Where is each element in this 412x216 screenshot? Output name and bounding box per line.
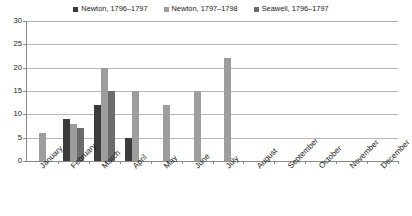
x-tick-mark (398, 161, 399, 164)
bar-group (120, 21, 151, 161)
legend-item[interactable]: Newton, 1797–1798 (164, 5, 238, 13)
bar-group (151, 21, 182, 161)
bar (132, 91, 139, 161)
bar (63, 119, 70, 161)
y-tick-label: 20 (14, 64, 22, 72)
bar (224, 58, 231, 161)
y-tick-label: 25 (14, 40, 22, 48)
bar-group (243, 21, 274, 161)
bar (94, 105, 101, 161)
bar (163, 105, 170, 161)
bar (194, 91, 201, 161)
x-axis: JanuaryFebruaryMarchAprilMayJuneJulyAugu… (26, 164, 398, 216)
bar-group (58, 21, 89, 161)
y-tick-label: 10 (14, 110, 22, 118)
legend-label: Newton, 1796–1797 (81, 5, 147, 13)
legend-item[interactable]: Seawell, 1796–1797 (254, 5, 329, 13)
bar-group (182, 21, 213, 161)
y-tick-label: 15 (14, 87, 22, 95)
square-marker (254, 7, 259, 12)
legend-label: Newton, 1797–1798 (172, 5, 238, 13)
plot-area (26, 21, 398, 162)
chart-legend: Newton, 1796–1797Newton, 1797–1798Seawel… (0, 2, 402, 16)
y-tick-label: 30 (14, 17, 22, 25)
bar-group (89, 21, 120, 161)
plot-wrapper: 051015202530 (0, 18, 402, 164)
y-tick-label: 0 (18, 157, 22, 165)
bar-group (336, 21, 367, 161)
bar (101, 68, 108, 161)
y-tick-label: 5 (18, 134, 22, 142)
legend-label: Seawell, 1796–1797 (262, 5, 329, 13)
bar-group (274, 21, 305, 161)
bars-layer (27, 21, 398, 161)
bar-group (27, 21, 58, 161)
legend-item[interactable]: Newton, 1796–1797 (73, 5, 147, 13)
y-axis: 051015202530 (0, 18, 26, 164)
bar (125, 138, 132, 161)
square-marker (164, 7, 169, 12)
square-marker (73, 7, 78, 12)
bar-group (213, 21, 244, 161)
